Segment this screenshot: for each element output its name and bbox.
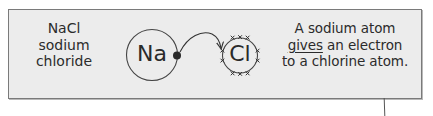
caption-line-3: to a chlorine atom. <box>268 53 422 70</box>
chlorine-symbol: Cl <box>222 43 258 65</box>
formula-line-1: NaCl <box>16 20 112 37</box>
leader-line <box>384 98 386 116</box>
compound-name: NaCl sodium chloride <box>16 20 112 70</box>
caption-line-1: A sodium atom <box>268 20 422 37</box>
caption-line-2: gives an electron <box>268 37 422 54</box>
caption-emphasis: gives <box>288 37 323 53</box>
caption: A sodium atom gives an electron to a chl… <box>268 20 422 70</box>
sodium-symbol: Na <box>127 43 177 65</box>
formula-line-3: chloride <box>16 53 112 70</box>
formula-line-2: sodium <box>16 37 112 54</box>
caption-line-2-rest: an electron <box>323 37 402 53</box>
